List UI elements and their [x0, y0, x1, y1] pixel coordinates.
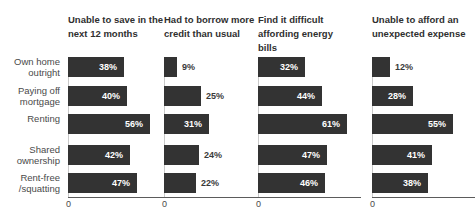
panel-title: Had to borrow more credit than usual — [164, 13, 256, 41]
bar-value-label: 56% — [125, 114, 143, 134]
bar-value-label: 32% — [280, 57, 298, 77]
category-label: Own home outright — [0, 56, 60, 78]
bar-value-label: 55% — [428, 114, 446, 134]
bar-value-label: 61% — [322, 114, 340, 134]
axis-tick-zero: 0 — [66, 199, 71, 209]
category-axis: Own home outright Paying off mortgage Re… — [0, 0, 64, 216]
bar — [372, 57, 390, 77]
bar-value-label: 40% — [102, 86, 120, 106]
bar — [164, 57, 177, 77]
bar-value-label: 24% — [204, 145, 222, 165]
bar — [164, 173, 196, 193]
bar-value-label: 22% — [201, 173, 219, 193]
panel-title: Find it difficult affording energy bills — [258, 13, 340, 55]
panel-title: Unable to save in the next 12 months — [68, 13, 164, 41]
category-label: Rent-free /squatting — [0, 172, 60, 194]
axis-tick-zero: 0 — [370, 199, 375, 209]
axis-line — [372, 197, 475, 198]
bar-value-label: 31% — [184, 114, 202, 134]
bar-value-label: 44% — [297, 86, 315, 106]
category-label: Shared ownership — [0, 144, 60, 166]
bar-value-label: 28% — [388, 86, 406, 106]
bar-value-label: 12% — [395, 57, 413, 77]
bar-value-label: 9% — [182, 57, 195, 77]
bar-value-label: 47% — [112, 173, 130, 193]
bar-value-label: 25% — [206, 86, 224, 106]
bar-value-label: 38% — [403, 173, 421, 193]
category-label: Renting — [0, 113, 60, 124]
bar-value-label: 42% — [105, 145, 123, 165]
panel-title: Unable to afford an unexpected expense — [372, 13, 468, 41]
bar-value-label: 47% — [302, 145, 320, 165]
chart-panel: Unable to afford an unexpected expense 1… — [372, 0, 455, 216]
category-label: Paying off mortgage — [0, 85, 60, 107]
bar — [164, 86, 201, 106]
axis-line — [258, 197, 361, 198]
axis-line — [164, 197, 267, 198]
bar — [164, 145, 199, 165]
axis-tick-zero: 0 — [162, 199, 167, 209]
bar-value-label: 38% — [99, 57, 117, 77]
bar-value-label: 46% — [300, 173, 318, 193]
bar-value-label: 41% — [407, 145, 425, 165]
axis-line — [68, 197, 171, 198]
axis-tick-zero: 0 — [256, 199, 261, 209]
